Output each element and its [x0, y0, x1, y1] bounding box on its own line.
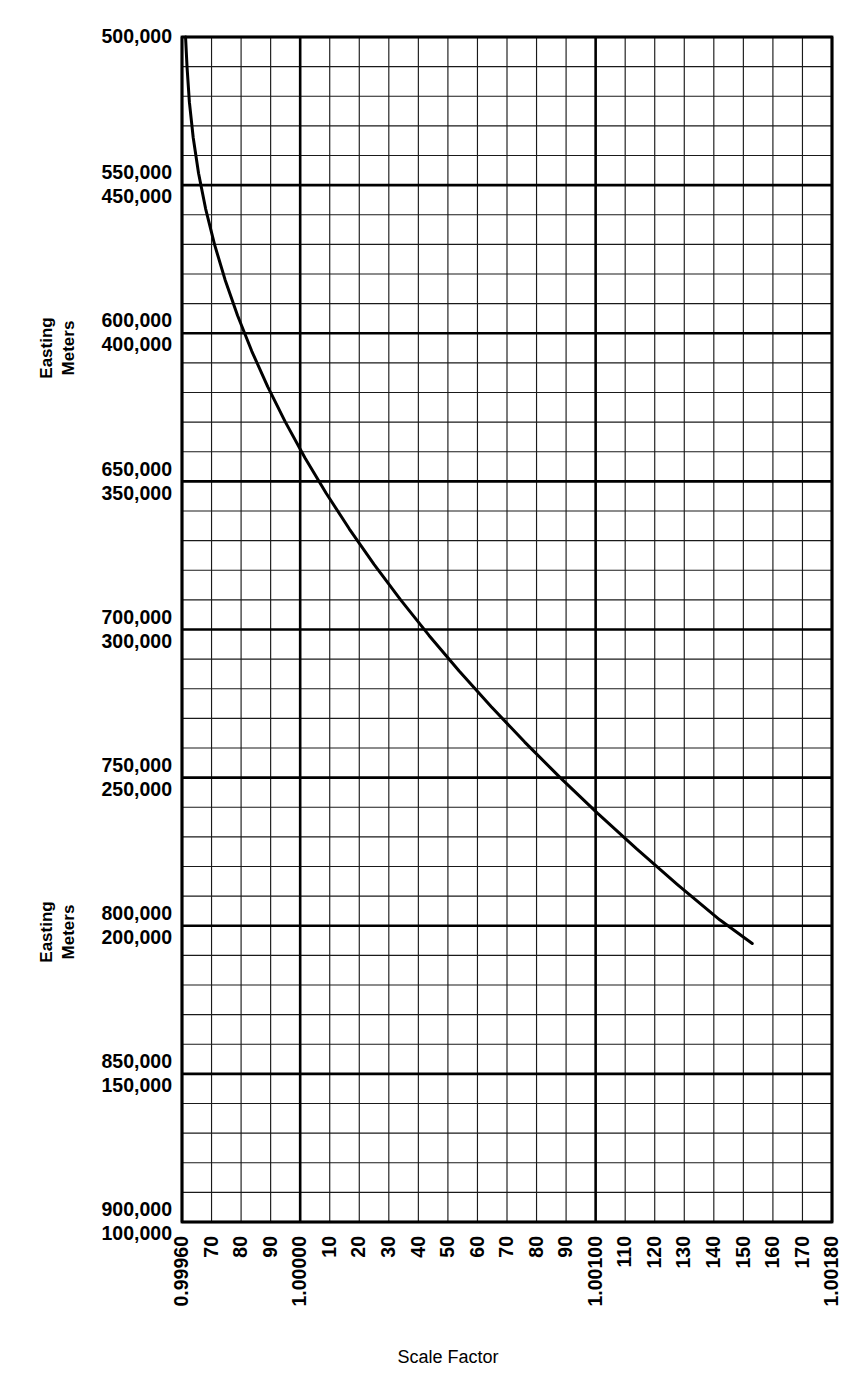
- x-axis-tick-label: 70: [200, 1236, 222, 1258]
- y-axis-side-label-lower-line1: Easting: [37, 901, 56, 962]
- y-axis-tick-label-lower: 250,000: [102, 778, 173, 800]
- x-axis-tick-label: 30: [377, 1236, 399, 1258]
- x-axis-tick-label: 1.00000: [288, 1236, 310, 1307]
- y-axis-tick-label-upper: 800,000: [102, 902, 173, 924]
- y-axis-tick-label-lower: 300,000: [102, 630, 173, 652]
- x-axis-title: Scale Factor: [397, 1347, 498, 1367]
- y-axis-tick-label-upper: 600,000: [102, 309, 173, 331]
- y-axis-tick-label-upper: 650,000: [102, 458, 173, 480]
- x-axis-tick-label: 1.00100: [584, 1236, 606, 1307]
- x-axis-tick-label: 170: [791, 1236, 813, 1269]
- y-axis-side-label-lower-line2: Meters: [59, 905, 78, 960]
- y-axis-tick-label-lower: 400,000: [102, 333, 173, 355]
- y-axis-tick-label-upper: 700,000: [102, 606, 173, 628]
- chart-background: [0, 0, 864, 1392]
- y-axis-tick-label-upper: 900,000: [102, 1198, 173, 1220]
- y-axis-side-label-upper-line1: Easting: [37, 317, 56, 378]
- y-axis-tick-label-upper: 550,000: [102, 161, 173, 183]
- x-axis-tick-label: 150: [732, 1236, 754, 1269]
- x-axis-tick-label: 140: [702, 1236, 724, 1269]
- y-axis-tick-label-lower: 450,000: [102, 185, 173, 207]
- scale-factor-chart-figure: 500,000550,000450,000600,000400,000650,0…: [0, 0, 864, 1392]
- x-axis-tick-label: 110: [613, 1236, 635, 1268]
- x-axis-tick-label: 90: [554, 1236, 576, 1258]
- x-axis-tick-label: 60: [466, 1236, 488, 1258]
- x-axis-tick-label: 40: [407, 1236, 429, 1258]
- x-axis-tick-label: 0.99960: [170, 1236, 192, 1307]
- x-axis-tick-label: 70: [495, 1236, 517, 1258]
- chart-canvas: 500,000550,000450,000600,000400,000650,0…: [0, 0, 864, 1392]
- x-axis-tick-label: 120: [643, 1236, 665, 1269]
- y-axis-tick-label-lower: 200,000: [102, 926, 173, 948]
- y-axis-side-label-upper-line2: Meters: [59, 321, 78, 376]
- x-axis-tick-label: 10: [318, 1236, 340, 1258]
- y-axis-tick-label-upper: 750,000: [102, 754, 173, 776]
- y-axis-tick-label-lower: 350,000: [102, 482, 173, 504]
- x-axis-tick-label: 80: [229, 1236, 251, 1258]
- x-axis-tick-label: 1.00180: [820, 1236, 842, 1307]
- x-axis-tick-label: 20: [347, 1236, 369, 1258]
- y-axis-tick-label-upper: 850,000: [102, 1050, 173, 1072]
- y-axis-tick-label-lower: 100,000: [102, 1222, 173, 1244]
- x-axis-tick-label: 160: [761, 1236, 783, 1269]
- x-axis-tick-label: 90: [259, 1236, 281, 1258]
- x-axis-tick-label: 80: [525, 1236, 547, 1258]
- y-axis-tick-label-upper: 500,000: [102, 25, 173, 47]
- x-axis-tick-label: 50: [436, 1236, 458, 1258]
- y-axis-tick-label-lower: 150,000: [102, 1074, 173, 1096]
- x-axis-tick-label: 130: [672, 1236, 694, 1269]
